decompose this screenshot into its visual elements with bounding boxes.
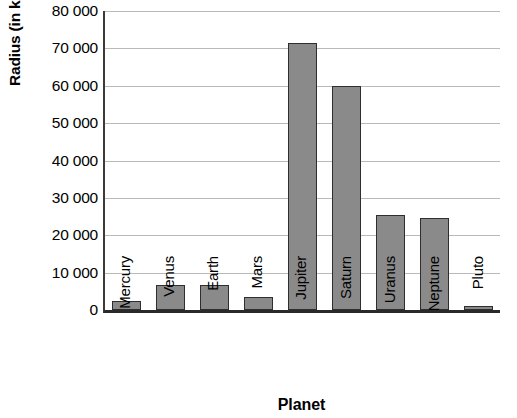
x-tick-label-mercury: Mercury <box>116 256 134 334</box>
y-tick-label: 50 000 <box>18 115 98 131</box>
x-tick-label-mars: Mars <box>248 256 266 334</box>
bar-chart-figure: Radius (in km) 80 000 70 000 60 000 50 0… <box>0 0 517 418</box>
x-slot: Earth <box>191 316 235 394</box>
y-tick-label: 80 000 <box>18 3 98 19</box>
x-slot: Jupiter <box>279 316 323 394</box>
x-axis-tick-labels: Mercury Venus Earth Mars Jupiter Saturn … <box>103 316 500 394</box>
y-tick-label: 20 000 <box>18 227 98 243</box>
x-tick-label-pluto: Pluto <box>469 256 487 334</box>
x-tick-label-jupiter: Jupiter <box>292 256 310 334</box>
y-tick-label: 30 000 <box>18 190 98 206</box>
x-tick-label-earth: Earth <box>204 256 222 334</box>
x-slot: Uranus <box>368 316 412 394</box>
y-tick-label: 60 000 <box>18 78 98 94</box>
y-tick-label: 40 000 <box>18 153 98 169</box>
x-slot: Saturn <box>324 316 368 394</box>
x-tick-label-venus: Venus <box>160 256 178 334</box>
x-slot: Mercury <box>103 316 147 394</box>
y-tick-label: 70 000 <box>18 40 98 56</box>
x-tick-label-neptune: Neptune <box>425 256 443 334</box>
y-tick-label: 0 <box>18 302 98 318</box>
x-slot: Mars <box>235 316 279 394</box>
y-axis-tick-labels: 80 000 70 000 60 000 50 000 40 000 30 00… <box>18 0 98 418</box>
x-slot: Pluto <box>456 316 500 394</box>
x-axis-title: Planet <box>103 396 500 414</box>
y-tick-label: 10 000 <box>18 265 98 281</box>
x-tick-label-saturn: Saturn <box>337 256 355 334</box>
x-slot: Venus <box>147 316 191 394</box>
x-tick-label-uranus: Uranus <box>381 256 399 334</box>
x-slot: Neptune <box>412 316 456 394</box>
